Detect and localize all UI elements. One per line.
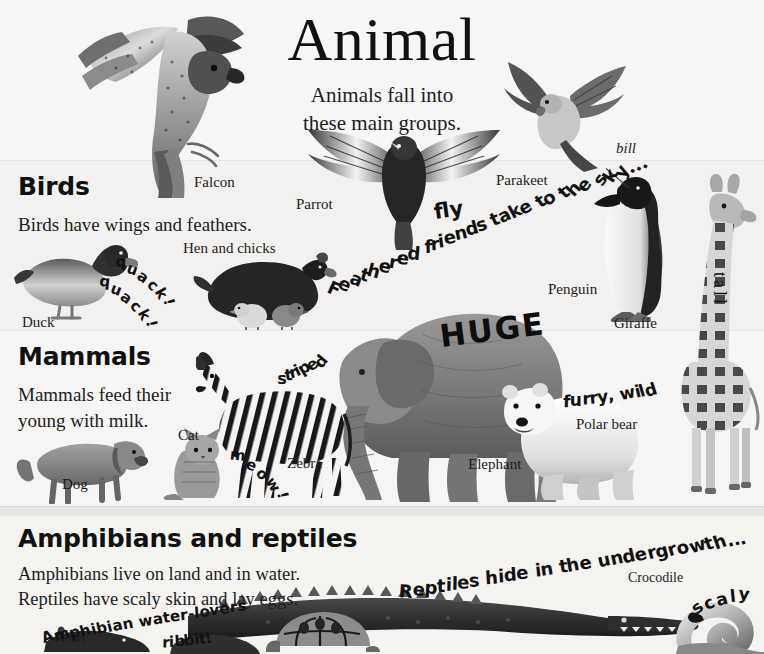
- section-heading-mammals: Mammals: [18, 342, 151, 371]
- page-title: Animal: [0, 8, 764, 70]
- caption-duck: Duck: [22, 314, 55, 331]
- caption-parrot: Parrot: [296, 196, 333, 213]
- section-body-birds: Birds have wings and feathers.: [18, 212, 348, 238]
- caption-parakeet: Parakeet: [496, 172, 548, 189]
- caption-penguin: Penguin: [548, 281, 597, 298]
- caption-cat: Cat: [178, 427, 199, 444]
- caption-hen-and-chicks: Hen and chicks: [183, 240, 275, 257]
- caption-polar-bear: Polar bear: [576, 416, 637, 433]
- section-body-mammals: Mammals feed their young with milk.: [18, 382, 318, 434]
- section-divider: [0, 506, 764, 516]
- subtitle-line-2: these main groups.: [0, 110, 764, 138]
- caption-dog: Dog: [62, 476, 88, 493]
- caption-crocodile: Crocodile: [628, 570, 683, 586]
- hairline-amphibians: [0, 506, 764, 507]
- section-heading-amphibians: Amphibians and reptiles: [18, 524, 357, 553]
- page-subtitle: Animals fall into these main groups.: [0, 82, 764, 137]
- caption-zebra: Zebra: [287, 455, 322, 472]
- cat-image: [158, 428, 242, 504]
- caption-giraffe: Giraffe: [614, 315, 657, 332]
- caption-elephant: Elephant: [468, 456, 521, 473]
- section-heading-birds: Birds: [18, 172, 90, 201]
- giraffe-image: [676, 166, 762, 496]
- accent-word-tall: tall: [709, 272, 730, 307]
- amphibians-body-line-1: Amphibians live on land and in water.: [18, 562, 418, 587]
- animal-poster-page: Animal Animals fall into these main grou…: [0, 0, 764, 654]
- subtitle-line-1: Animals fall into: [0, 82, 764, 110]
- tortoise-image: [262, 608, 380, 654]
- caption-falcon: Falcon: [194, 174, 235, 191]
- accent-word-fly: fly: [432, 196, 464, 224]
- mammals-body-line-2: young with milk.: [18, 408, 318, 434]
